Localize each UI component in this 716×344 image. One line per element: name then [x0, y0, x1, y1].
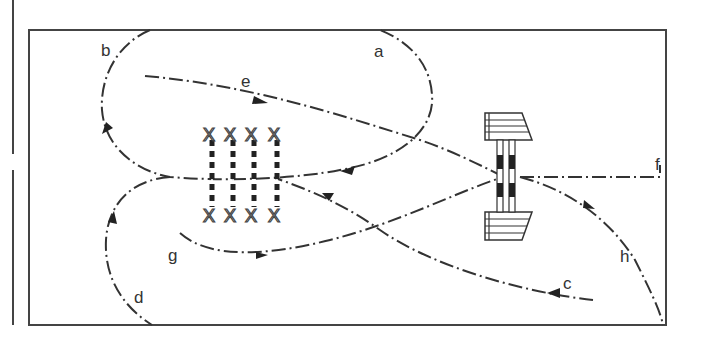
svg-text:X: X — [203, 125, 215, 145]
path-e — [145, 76, 500, 175]
label-e: e — [241, 72, 250, 91]
svg-text:X: X — [245, 125, 257, 145]
ground-poles: X X X X X X X X — [203, 125, 280, 226]
arrow-a — [340, 166, 355, 175]
svg-text:X: X — [268, 206, 280, 226]
label-a: a — [374, 42, 384, 61]
pole-4: X X — [268, 125, 280, 226]
label-g: g — [168, 246, 177, 265]
label-d: d — [134, 288, 143, 307]
svg-text:X: X — [203, 206, 215, 226]
arrow-c — [547, 288, 560, 298]
label-b: b — [101, 41, 110, 60]
svg-text:X: X — [245, 206, 257, 226]
arrow-g — [256, 252, 268, 259]
arena-diagram: X X X X X X X X — [0, 0, 716, 344]
label-f: f — [655, 155, 660, 174]
pole-3: X X — [245, 125, 257, 226]
arrow-d — [108, 211, 117, 224]
svg-text:X: X — [224, 206, 236, 226]
svg-text:X: X — [224, 125, 236, 145]
label-c: c — [563, 274, 572, 293]
path-h — [520, 177, 663, 325]
path-f — [520, 165, 660, 177]
svg-text:X: X — [268, 125, 280, 145]
label-h: h — [620, 247, 629, 266]
pole-1: X X — [203, 125, 215, 226]
arrow-h — [583, 200, 595, 209]
arrow-e — [252, 96, 268, 104]
pole-2: X X — [224, 125, 236, 226]
path-c — [275, 178, 593, 300]
